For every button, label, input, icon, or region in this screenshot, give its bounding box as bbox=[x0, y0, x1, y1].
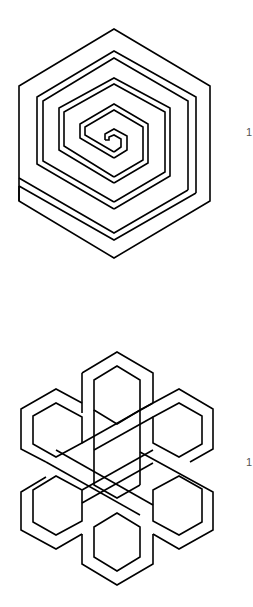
hexagonal-spiral-figure: 1 bbox=[0, 0, 253, 300]
top-hexagon-inner bbox=[94, 366, 140, 424]
figure-label: 1 bbox=[246, 126, 252, 138]
spiral-outer-wall bbox=[19, 29, 210, 258]
figure-label: 1 bbox=[246, 456, 252, 468]
six-hexagon-interlace-drawing bbox=[0, 300, 253, 607]
lower-left-hexagon-inner bbox=[33, 476, 82, 535]
top-hexagon-outer bbox=[82, 352, 153, 403]
six-hexagon-interlace-figure: 1 bbox=[0, 300, 253, 607]
hexagonal-spiral-drawing bbox=[0, 0, 253, 300]
lower-right-hexagon-inner bbox=[153, 476, 202, 535]
upper-right-hexagon-inner bbox=[153, 403, 202, 457]
bottom-hexagon-inner bbox=[94, 513, 140, 571]
upper-left-hexagon-inner bbox=[33, 403, 82, 457]
